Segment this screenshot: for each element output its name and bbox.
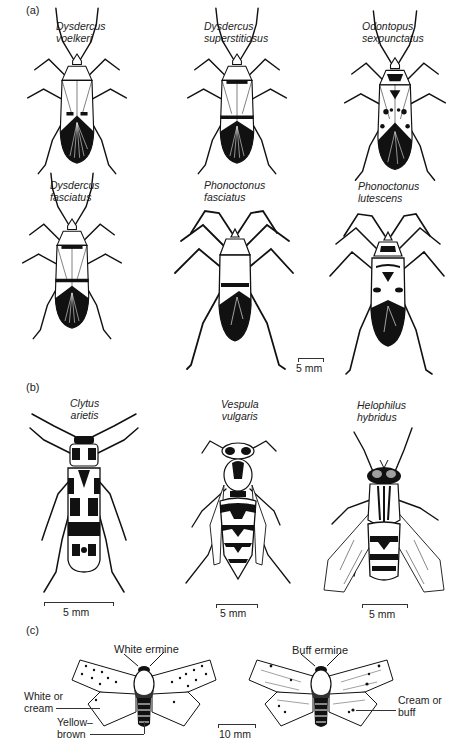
annotation-yellow-brown: Yellow– brown — [57, 716, 93, 740]
leader-line-yellow-brown-vertical — [144, 722, 145, 734]
genus-text: Phonoctonus — [204, 179, 265, 191]
species-label-clytus-arietis: Clytus arietis — [70, 397, 99, 421]
species-label-vespula-vulgaris: Vespula vulgaris — [221, 398, 259, 422]
clytus-arietis-illustration — [84, 440, 85, 441]
annotation-cream-or-buff: Cream or buff — [398, 694, 442, 718]
annotation-line-1: White or — [24, 690, 63, 702]
scale-label-c: 10 mm — [219, 728, 251, 740]
annotation-line-1: Cream or — [398, 694, 442, 706]
leader-line-cream-or-buff — [356, 710, 396, 711]
annotation-white-or-cream: White or cream — [24, 690, 63, 714]
epithet-text: superstitiosus — [204, 32, 268, 44]
moth-label-white-ermine: White ermine — [114, 643, 179, 655]
scale-label-a: 5 mm — [296, 362, 322, 374]
helophilus-hybridus-illustration — [384, 480, 385, 481]
annotation-line-1: Yellow– — [57, 716, 93, 728]
genus-text: Helophilus — [357, 399, 406, 411]
dysdercus-voelkeri-illustration — [77, 105, 78, 106]
moth-label-buff-ermine: Buff ermine — [292, 644, 348, 656]
species-label-dysdercus-superstitiosus: Dysdercus superstitiosus — [204, 20, 268, 44]
epithet-text: vulgaris — [221, 410, 259, 422]
annotation-line-2: buff — [398, 706, 442, 718]
phonoctonus-fasciatus-illustration — [235, 275, 236, 276]
epithet-text: hybridus — [357, 411, 406, 423]
scale-label-vespula: 5 mm — [220, 607, 246, 619]
genus-text: Vespula — [221, 398, 259, 410]
epithet-text: fasciatus — [50, 191, 100, 203]
genus-text: Clytus — [70, 397, 99, 409]
dysdercus-superstitiosus-illustration — [237, 105, 238, 106]
annotation-line-2: brown — [57, 728, 93, 740]
species-label-phonoctonus-lutescens: Phonoctonus lutescens — [358, 180, 419, 204]
odontopus-sexpunctatus-illustration — [395, 110, 396, 111]
leader-line-white-or-cream — [56, 708, 100, 709]
epithet-text: sexpunctatus — [362, 32, 424, 44]
epithet-text: fasciatus — [204, 191, 265, 203]
panel-a-label: (a) — [26, 4, 39, 16]
genus-text: Dysdercus — [204, 20, 268, 32]
species-label-dysdercus-voelkeri: Dysdercus voelkeri — [56, 20, 106, 44]
vespula-vulgaris-illustration — [238, 455, 239, 456]
scale-label-clytus: 5 mm — [63, 606, 89, 618]
buff-ermine-illustration — [321, 690, 322, 691]
genus-text: Dysdercus — [56, 20, 106, 32]
white-ermine-illustration — [144, 690, 145, 691]
species-label-helophilus-hybridus: Helophilus hybridus — [357, 399, 406, 423]
dysdercus-fasciatus-illustration — [72, 270, 73, 271]
species-label-phonoctonus-fasciatus: Phonoctonus fasciatus — [204, 179, 265, 203]
epithet-text: lutescens — [358, 192, 419, 204]
scale-label-helophilus: 5 mm — [369, 608, 395, 620]
leader-line-yellow-brown — [90, 734, 144, 735]
genus-text: Phonoctonus — [358, 180, 419, 192]
panel-b-label: (b) — [26, 381, 39, 393]
epithet-text: arietis — [70, 409, 99, 421]
panel-c-label: (c) — [26, 624, 39, 636]
phonoctonus-lutescens-illustration — [388, 280, 389, 281]
